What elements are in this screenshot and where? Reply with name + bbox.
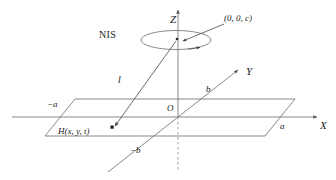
x-negative-tick-label: −a (47, 100, 58, 109)
satellite-leader-line (183, 24, 224, 41)
y-positive-tick-label: b (206, 85, 211, 94)
y-negative-tick-label: −b (130, 146, 141, 155)
ground-point-label: H(x, y, t) (58, 127, 90, 136)
z-axis-label: Z (170, 14, 176, 25)
y-axis-label: Y (246, 66, 252, 77)
region-label-nis: NIS (99, 30, 116, 40)
y-axis (108, 70, 238, 172)
satellite-marker (176, 38, 179, 41)
distance-label-l: l (118, 75, 121, 85)
x-axis-label: X (320, 120, 327, 131)
figure-root: Z Y X O a −a b −b NIS (0, 0, c) H(x, y, … (0, 0, 336, 180)
satellite-point-label: (0, 0, c) (224, 14, 252, 23)
diagram-canvas (0, 0, 336, 180)
x-positive-tick-label: a (280, 122, 285, 131)
origin-label: O (167, 104, 174, 113)
